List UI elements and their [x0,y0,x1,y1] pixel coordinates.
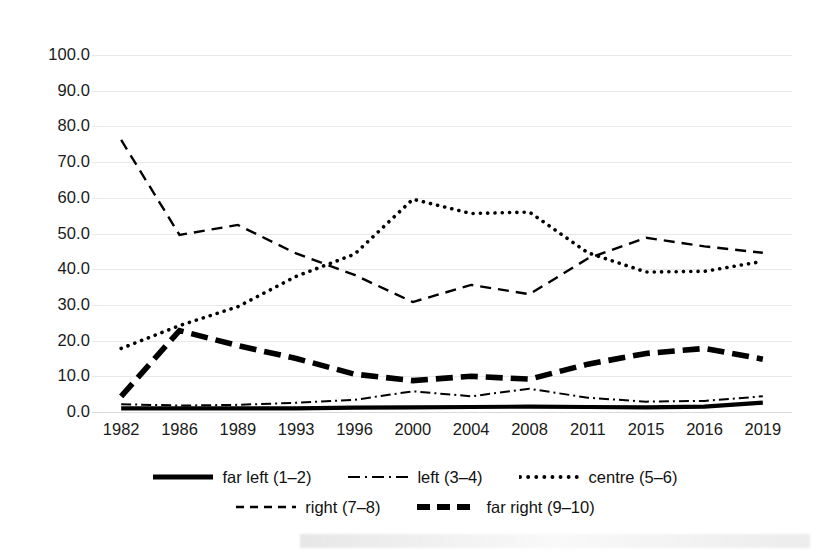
x-axis-line [92,412,792,413]
legend-item[interactable]: far left (1–2) [152,468,311,486]
plot-area [92,55,792,412]
y-axis-tick-label: 40.0 [10,260,90,277]
legend-item-label: right (7–8) [305,498,380,516]
dashed-thick-line-icon [416,500,478,514]
series-line-right [121,140,763,302]
page-smudge [300,534,810,548]
dotted-line-icon [519,470,581,484]
legend-item[interactable]: far right (9–10) [416,498,594,516]
solid-thick-line-icon [152,470,214,484]
series-container [92,55,792,412]
chart-legend: far left (1–2)left (3–4)centre (5–6)righ… [100,462,730,522]
series-line-far-right [121,331,763,397]
legend-row: far left (1–2)left (3–4)centre (5–6) [100,462,730,492]
legend-item-label: centre (5–6) [589,468,678,486]
series-line-far-left [121,403,763,409]
y-axis-tick-label: 60.0 [10,189,90,206]
legend-item-label: far left (1–2) [222,468,311,486]
series-line-centre [121,199,763,348]
y-axis-tick-label: 90.0 [10,82,90,99]
background-artifact [560,20,567,50]
y-axis-tick-label: 70.0 [10,153,90,170]
y-axis-tick-label: 30.0 [10,296,90,313]
legend-item-label: left (3–4) [417,468,482,486]
y-axis-tick-label: 50.0 [10,225,90,242]
dashed-line-icon [235,500,297,514]
legend-row: right (7–8)far right (9–10) [100,492,730,522]
y-axis-tick-label: 80.0 [10,117,90,134]
legend-item[interactable]: centre (5–6) [519,468,678,486]
series-line-left [121,389,763,406]
x-axis-tick-label: 2019 [728,420,798,438]
y-axis-tick-label: 100.0 [10,46,90,63]
line-chart: 0.010.020.030.040.050.060.070.080.090.01… [0,0,816,555]
legend-item[interactable]: left (3–4) [347,468,482,486]
y-axis-tick-label: 0.0 [10,403,90,420]
legend-item-label: far right (9–10) [486,498,594,516]
y-axis-tick-label: 10.0 [10,367,90,384]
dash-dot-line-icon [347,470,409,484]
y-axis-tick-label: 20.0 [10,332,90,349]
legend-item[interactable]: right (7–8) [235,498,380,516]
